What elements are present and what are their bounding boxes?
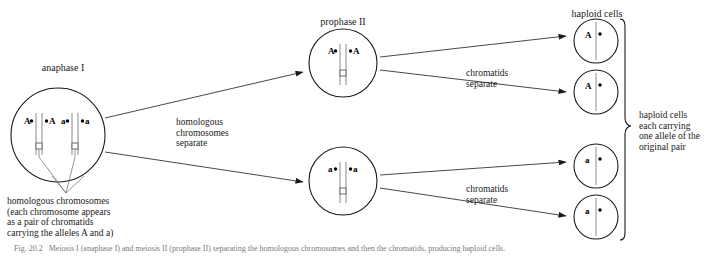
haploid-cell-3-allele: a	[585, 155, 590, 165]
haploid-cell-2	[574, 70, 618, 114]
prophase-bottom-allele-a2: a	[353, 164, 358, 174]
haploid-cell-1-allele: A	[585, 30, 592, 40]
prophase-top-allele-A1: A	[328, 46, 335, 56]
haploid-cell-4	[574, 195, 618, 239]
haploid-cells-brace	[620, 19, 631, 240]
prophase-ii-top-cell	[309, 29, 377, 97]
chromatids-separate-bottom-label: chromatids separate	[466, 184, 508, 205]
haploid-cell-2-allele: A	[585, 81, 592, 91]
anaphase-allele-a1: a	[61, 116, 66, 126]
anaphase-allele-a2: a	[85, 116, 90, 126]
homologous-separate-label: homologous chromosomes separate	[176, 117, 229, 149]
anaphase-i-title: anaphase I	[28, 62, 98, 73]
haploid-cells-heading: haploid cells	[557, 8, 637, 19]
meiosis-diagram: anaphase I A A a a prophase II A A a a h…	[0, 0, 712, 258]
haploid-cell-3	[574, 144, 618, 188]
prophase-bottom-allele-a1: a	[328, 164, 333, 174]
anaphase-allele-A2: A	[49, 116, 56, 126]
anaphase-i-cell	[11, 88, 105, 193]
anaphase-allele-A1: A	[24, 116, 31, 126]
prophase-ii-bottom-cell	[309, 147, 377, 215]
haploid-cell-4-allele: a	[585, 206, 590, 216]
homologous-chromosomes-caption: homologous chromosomes (each chromosome …	[7, 196, 113, 238]
haploid-cell-1	[574, 19, 618, 63]
figure-caption: Fig. 20.2 Meiosis I (anaphase I) and mei…	[14, 244, 704, 253]
prophase-top-allele-A2: A	[353, 46, 360, 56]
chromatids-separate-top-label: chromatids separate	[466, 68, 508, 89]
haploid-cells-caption: haploid cells each carrying one allele o…	[639, 110, 700, 152]
prophase-ii-title: prophase II	[308, 16, 378, 27]
